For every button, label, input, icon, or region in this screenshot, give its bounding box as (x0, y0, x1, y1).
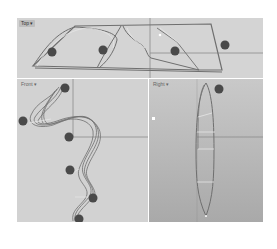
right-view-geometry (149, 79, 263, 222)
viewport-front[interactable]: Front ▾ (17, 79, 148, 222)
point-marker[interactable] (171, 47, 180, 56)
point-marker[interactable] (66, 166, 75, 175)
point-marker[interactable] (221, 41, 230, 50)
viewport-title: Front (21, 81, 33, 87)
viewport-label-front[interactable]: Front ▾ (19, 81, 39, 88)
chevron-down-icon: ▾ (166, 81, 169, 87)
point-marker[interactable] (65, 133, 74, 142)
viewport-title: Right (153, 81, 165, 87)
point-marker[interactable] (75, 215, 84, 223)
point-marker[interactable] (99, 46, 108, 55)
chevron-down-icon: ▾ (30, 20, 33, 26)
viewport-title: Top (21, 20, 29, 26)
chevron-down-icon: ▾ (34, 81, 37, 87)
point-marker[interactable] (61, 84, 70, 93)
point-marker[interactable] (89, 194, 98, 203)
point-marker[interactable] (19, 117, 28, 126)
front-view-geometry (17, 79, 148, 222)
viewport-label-right[interactable]: Right ▾ (151, 81, 171, 88)
viewport-right[interactable]: Right ▾ (149, 79, 263, 222)
viewport-top[interactable]: Top ▾ (17, 18, 263, 78)
viewport-label-top[interactable]: Top ▾ (19, 20, 35, 27)
mouse-cursor (152, 117, 155, 120)
top-view-geometry (17, 18, 263, 78)
point-marker[interactable] (48, 48, 57, 57)
point-marker[interactable] (215, 85, 224, 94)
